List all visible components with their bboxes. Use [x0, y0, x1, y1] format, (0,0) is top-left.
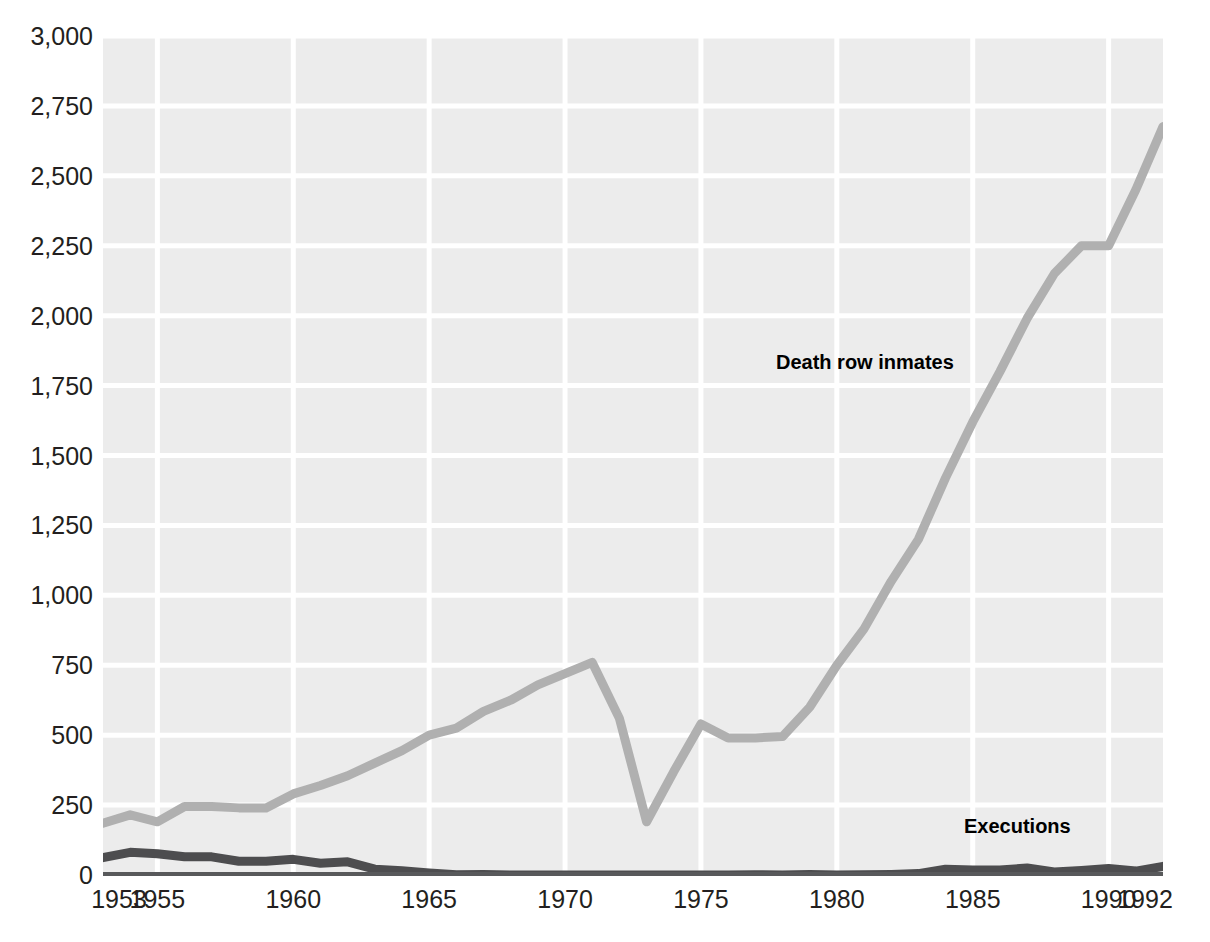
- axis-baseline: [103, 872, 1163, 876]
- y-axis-tick-label: 500: [51, 723, 93, 748]
- y-axis-tick-label: 3,000: [30, 24, 93, 49]
- chart-figure: 02505007501,0001,2501,5001,7502,0002,250…: [0, 0, 1210, 942]
- x-axis-tick-label: 1985: [945, 887, 1001, 912]
- plot-svg: [103, 36, 1163, 875]
- y-axis-tick-label: 750: [51, 653, 93, 678]
- y-axis-tick-label: 1,000: [30, 583, 93, 608]
- y-axis-tick-label: 1,250: [30, 513, 93, 538]
- x-axis-tick-label: 1975: [673, 887, 729, 912]
- y-axis-tick-label: 1,500: [30, 444, 93, 469]
- x-axis-tick-label: 1965: [401, 887, 457, 912]
- plot-area: [103, 36, 1163, 875]
- y-axis-tick-label: 1,750: [30, 374, 93, 399]
- y-axis-tick-label: 2,750: [30, 94, 93, 119]
- y-axis-tick-label: 250: [51, 793, 93, 818]
- y-axis-tick-label: 2,000: [30, 304, 93, 329]
- x-axis-tick-label: 1992: [1117, 887, 1173, 912]
- y-axis-tick-label: 2,500: [30, 164, 93, 189]
- executions-series-label: Executions: [964, 816, 1071, 836]
- x-axis-tick-label: 1980: [809, 887, 865, 912]
- x-axis-tick-label: 1955: [130, 887, 186, 912]
- death-row-inmates-series-label: Death row inmates: [776, 352, 954, 372]
- x-axis-tick-label: 1970: [537, 887, 593, 912]
- death-row-inmates-line: [103, 127, 1163, 824]
- horizontal-gridlines: [103, 36, 1163, 875]
- y-axis-tick-label: 2,250: [30, 234, 93, 259]
- x-axis-tick-label: 1960: [265, 887, 321, 912]
